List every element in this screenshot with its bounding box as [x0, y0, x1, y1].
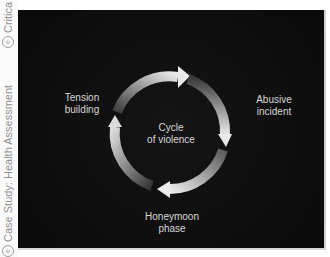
center-label-line2: of violence: [140, 134, 202, 146]
stage-line2: building: [52, 104, 112, 116]
stage-line1: Honeymoon: [136, 211, 208, 223]
stage-line2: phase: [136, 223, 208, 235]
center-label: Cycle of violence: [140, 122, 202, 146]
stage-label-abusive-incident: Abusive incident: [244, 94, 304, 118]
center-label-line1: Cycle: [140, 122, 202, 134]
stage-line2: incident: [244, 106, 304, 118]
stage-label-honeymoon-phase: Honeymoon phase: [136, 211, 208, 235]
stage-line1: Abusive: [244, 94, 304, 106]
stage-label-tension-building: Tension building: [52, 92, 112, 116]
stage-line1: Tension: [52, 92, 112, 104]
arrow-tension-to-abusive: [117, 66, 190, 112]
arrow-abusive-to-honeymoon: [157, 150, 223, 198]
